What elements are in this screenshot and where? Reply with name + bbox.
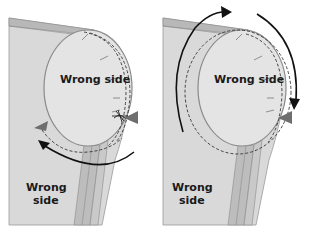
right-panel: Wrong side Wrong side xyxy=(163,6,300,225)
armhole-right xyxy=(198,30,286,146)
arrowhead-right-top-icon xyxy=(221,6,232,18)
armhole-left xyxy=(44,30,132,146)
label-wrong-outer-left-1: Wrong xyxy=(26,181,67,194)
left-panel: Wrong side Wrong side xyxy=(9,18,138,225)
arrowhead-right-bottom-icon xyxy=(289,98,300,110)
sewing-diagram: Wrong side Wrong side Wrong side Wrong s… xyxy=(0,0,309,231)
label-wrong-side-inner-left: Wrong side xyxy=(60,73,130,86)
label-wrong-outer-left-2: side xyxy=(33,194,59,207)
label-wrong-outer-right-1: Wrong xyxy=(172,181,213,194)
label-wrong-outer-right-2: side xyxy=(179,194,205,207)
label-wrong-side-inner-right: Wrong side xyxy=(214,73,284,86)
